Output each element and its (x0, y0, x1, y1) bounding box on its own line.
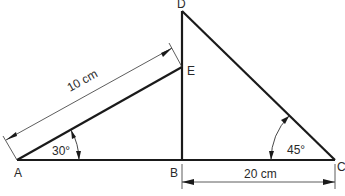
vertex-label-a: A (14, 166, 22, 180)
vertex-label-c: C (337, 160, 345, 174)
arrowhead-icon (71, 130, 76, 139)
dimension-label-bc: 20 cm (244, 167, 277, 181)
segment-dc (182, 11, 335, 160)
dimension-line-ae (6, 48, 172, 140)
geometry-diagram: 10 cm 20 cm 30° 45° A B C D E (0, 0, 345, 196)
segment-ae (17, 67, 182, 160)
angle-label-a: 30° (52, 144, 70, 158)
arrowhead-icon (6, 132, 17, 140)
extension-line-a (3, 136, 17, 160)
arrowhead-icon (281, 116, 289, 124)
arrowhead-icon (161, 48, 172, 57)
vertex-label-b: B (170, 166, 178, 180)
vertex-label-e: E (187, 64, 195, 78)
angle-label-c: 45° (287, 143, 305, 157)
arrowhead-icon (269, 151, 274, 160)
arrowhead-icon (182, 179, 194, 185)
arrowhead-icon (323, 179, 335, 185)
arrowhead-icon (76, 151, 81, 160)
extension-line-e (169, 43, 182, 67)
vertex-label-d: D (177, 0, 186, 11)
